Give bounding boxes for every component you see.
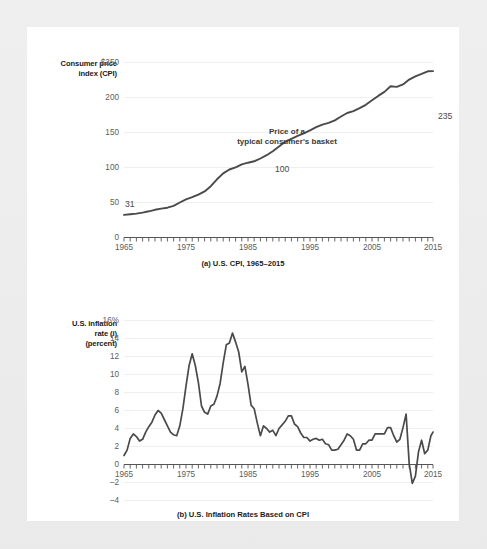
figure-b-x-ticks — [124, 465, 433, 469]
figure-b-inflation-line — [124, 333, 433, 483]
page-root: Consumer price index (CPI) $250 200 150 … — [0, 0, 487, 549]
figure-a-xtick-2015: 2015 — [416, 243, 450, 252]
figure-a-x-ticks — [124, 238, 433, 242]
figure-a-xtick-1985: 1985 — [231, 243, 265, 252]
figure-b-xtick-2005: 2005 — [355, 470, 389, 479]
figure-a-start-value-label: 31 — [125, 199, 135, 209]
figure-b-xtick-1965: 1965 — [107, 470, 141, 479]
figure-a-annotation: Price of a typical consumer's basket — [217, 127, 357, 147]
figure-a-xtick-1995: 1995 — [293, 243, 327, 252]
figure-a-xtick-1975: 1975 — [169, 243, 203, 252]
figure-a-caption: (a) U.S. CPI, 1965–2015 — [27, 259, 459, 268]
figure-a-xtick-1965: 1965 — [107, 243, 141, 252]
figure-card: Consumer price index (CPI) $250 200 150 … — [27, 27, 459, 521]
figure-a-annotation-line2: typical consumer's basket — [237, 137, 337, 146]
figure-a-mid-value-label: 100 — [275, 164, 289, 174]
figure-b-plot — [27, 281, 459, 521]
figure-a-annotation-line1: Price of a — [269, 127, 305, 136]
figure-b-xtick-1985: 1985 — [231, 470, 265, 479]
figure-b-xtick-1995: 1995 — [293, 470, 327, 479]
figure-a-xtick-2005: 2005 — [355, 243, 389, 252]
figure-b-caption: (b) U.S. Inflation Rates Based on CPI — [27, 510, 459, 519]
figure-b-xtick-2015: 2015 — [416, 470, 450, 479]
figure-a-cpi: Consumer price index (CPI) $250 200 150 … — [27, 27, 459, 281]
figure-b-inflation: U.S. inflation rate (i) (percent) 16% 14… — [27, 281, 459, 521]
figure-b-xtick-1975: 1975 — [169, 470, 203, 479]
figure-a-end-value-label: 235 — [438, 111, 452, 121]
